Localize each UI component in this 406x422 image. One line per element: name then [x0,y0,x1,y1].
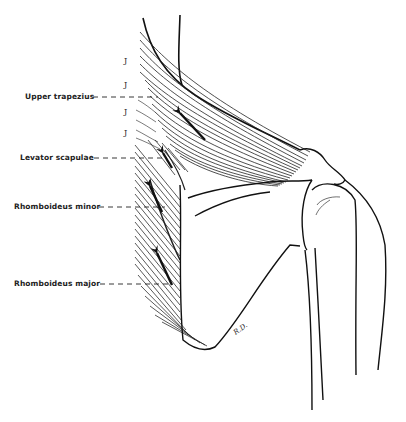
vertebra-mark: J [124,80,127,89]
rhomboid-fibers [135,140,207,346]
neck-outline [143,15,300,150]
scapula-outline [180,149,345,350]
vertebra-mark: J [124,107,127,116]
shoulder-muscle-diagram [0,0,406,422]
vertebra-mark: J [124,128,127,137]
label-upper-trapezius: Upper trapezius [25,92,94,101]
muscle-action-arrows [150,113,205,285]
humerus-outline [302,180,386,410]
label-rhomboideus-minor: Rhomboideus minor [14,202,100,211]
upper-trapezius-fibers [136,32,310,186]
label-levator-scapulae: Levator scapulae [20,153,94,162]
label-rhomboideus-major: Rhomboideus major [14,279,100,288]
vertebra-mark: J [124,56,127,65]
